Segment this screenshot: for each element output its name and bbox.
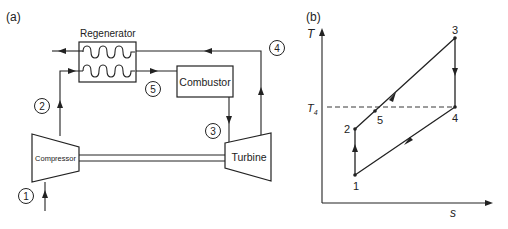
state-point-1: 1	[19, 189, 34, 204]
arrow-exhaust-out-icon	[58, 48, 66, 54]
panel-a-schematic: (a) Regenerator Combustor	[6, 10, 285, 211]
regenerator-label: Regenerator	[80, 28, 136, 39]
turbine: Turbine	[225, 133, 271, 181]
regenerator: Regenerator	[79, 28, 136, 82]
point-4-label: 4	[452, 112, 458, 124]
y-axis-arrow-icon	[319, 28, 325, 36]
cycle-path	[355, 38, 455, 175]
svg-text:5: 5	[150, 84, 156, 95]
arrow-to-combustor-icon	[150, 68, 158, 74]
state-point-2: 2	[35, 99, 50, 114]
point-1-label: 1	[353, 180, 359, 192]
compressor-label: Compressor	[35, 154, 76, 163]
arrow-1-2-icon	[352, 144, 358, 152]
arrow-compressor-inlet-icon	[42, 190, 48, 198]
figure: (a) Regenerator Combustor	[0, 0, 508, 229]
arrow-turbine-exit-icon	[258, 87, 264, 95]
combustor: Combustor	[177, 66, 233, 97]
panel-b-ts-diagram: (b) T s T4 1 2 3 4 5	[306, 10, 493, 220]
panel-b-label: (b)	[306, 10, 321, 24]
arrow-regen-inlet-icon	[68, 68, 76, 74]
svg-text:4: 4	[274, 43, 280, 54]
svg-text:3: 3	[210, 126, 216, 137]
state-point-3: 3	[206, 124, 221, 139]
arrow-3-4-icon	[452, 68, 458, 76]
regenerator-coil-hot	[83, 46, 135, 58]
panel-a-label: (a)	[6, 10, 21, 24]
regenerator-coil-cold	[83, 65, 135, 77]
point-3-label: 3	[452, 24, 458, 36]
state-point-4: 4	[270, 41, 285, 56]
svg-text:1: 1	[23, 191, 29, 202]
x-axis-arrow-icon	[485, 200, 493, 206]
arrow-to-turbine-icon	[226, 116, 232, 124]
x-axis-label: s	[450, 206, 456, 220]
arrow-compressor-exit-icon	[57, 100, 63, 108]
arrow-exhaust-return-icon	[204, 48, 212, 54]
t4-label: T4	[307, 102, 318, 116]
point-5-label: 5	[377, 114, 383, 126]
compressor: Compressor	[32, 134, 79, 182]
svg-text:2: 2	[39, 101, 45, 112]
combustor-label: Combustor	[179, 76, 231, 88]
turbine-label: Turbine	[231, 151, 266, 163]
point-2-label: 2	[344, 123, 350, 135]
y-axis-label: T	[307, 27, 316, 41]
state-point-5: 5	[146, 82, 161, 97]
